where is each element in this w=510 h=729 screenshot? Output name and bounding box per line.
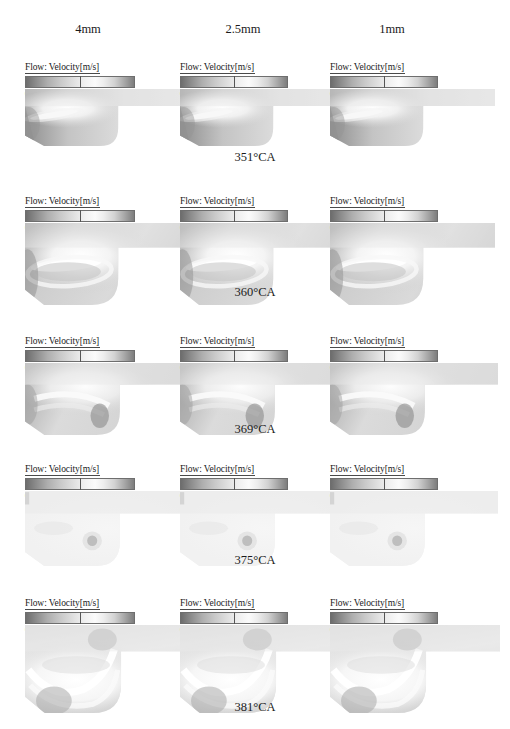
colorbar-gradient (180, 76, 288, 88)
velocity-contour-field (25, 89, 190, 146)
crank-angle-row-4: Flow: Velocity[m/s]011.8523.71 Flow: Vel… (0, 592, 510, 717)
colorbar-title: Flow: Velocity[m/s] (180, 62, 255, 74)
colorbar-midpoint-tick (384, 350, 385, 362)
velocity-contour-field (330, 89, 495, 146)
crank-angle-caption-3: 375°CA (0, 553, 510, 568)
column-header-2: 1mm (332, 22, 452, 37)
colorbar-gradient (25, 478, 135, 490)
colorbar-midpoint-tick (384, 478, 385, 490)
colorbar-title: Flow: Velocity[m/s] (330, 196, 405, 208)
colorbar-midpoint-tick (384, 76, 385, 88)
colorbar-title: Flow: Velocity[m/s] (330, 464, 405, 476)
colorbar-gradient (180, 478, 288, 490)
colorbar-midpoint-tick (234, 210, 235, 222)
colorbar-gradient (330, 478, 438, 490)
colorbar-title: Flow: Velocity[m/s] (330, 336, 405, 348)
crank-angle-caption-4: 381°CA (0, 700, 510, 715)
flow-velocity-figure: 4mm2.5mm1mm Flow: Velocity[m/s]037.9575.… (0, 0, 510, 729)
colorbar-gradient (25, 76, 135, 88)
colorbar-title: Flow: Velocity[m/s] (25, 196, 100, 208)
colorbar-title: Flow: Velocity[m/s] (25, 336, 100, 348)
colorbar-gradient (25, 350, 135, 362)
colorbar-midpoint-tick (384, 210, 385, 222)
crank-angle-caption-0: 351°CA (0, 150, 510, 165)
colorbar-title: Flow: Velocity[m/s] (25, 464, 100, 476)
crank-angle-caption-2: 369°CA (0, 422, 510, 437)
colorbar-gradient (180, 612, 288, 624)
colorbar-gradient (330, 350, 438, 362)
column-header-0: 4mm (28, 22, 148, 37)
colorbar-title: Flow: Velocity[m/s] (180, 336, 255, 348)
colorbar-midpoint-tick (80, 350, 81, 362)
velocity-contour-field (180, 89, 345, 146)
colorbar-title: Flow: Velocity[m/s] (330, 62, 405, 74)
colorbar-title: Flow: Velocity[m/s] (25, 598, 100, 610)
colorbar-midpoint-tick (384, 612, 385, 624)
colorbar-title: Flow: Velocity[m/s] (180, 196, 255, 208)
colorbar-midpoint-tick (80, 76, 81, 88)
colorbar-gradient (330, 612, 438, 624)
colorbar-gradient (180, 210, 288, 222)
colorbar-midpoint-tick (80, 210, 81, 222)
crank-angle-caption-1: 360°CA (0, 285, 510, 300)
column-header-1: 2.5mm (183, 22, 303, 37)
colorbar-gradient (330, 210, 438, 222)
colorbar-title: Flow: Velocity[m/s] (25, 62, 100, 74)
crank-angle-row-0: Flow: Velocity[m/s]037.9575.91 Flow: Vel… (0, 56, 510, 150)
colorbar-midpoint-tick (80, 612, 81, 624)
colorbar-gradient (25, 612, 135, 624)
colorbar-gradient (25, 210, 135, 222)
colorbar-title: Flow: Velocity[m/s] (330, 598, 405, 610)
colorbar-midpoint-tick (234, 350, 235, 362)
colorbar-title: Flow: Velocity[m/s] (180, 598, 255, 610)
colorbar-midpoint-tick (234, 478, 235, 490)
colorbar-midpoint-tick (234, 612, 235, 624)
column-header-row: 4mm2.5mm1mm (0, 22, 510, 42)
colorbar-title: Flow: Velocity[m/s] (180, 464, 255, 476)
colorbar-midpoint-tick (234, 76, 235, 88)
colorbar-gradient (330, 76, 438, 88)
colorbar-gradient (180, 350, 288, 362)
colorbar-midpoint-tick (80, 478, 81, 490)
